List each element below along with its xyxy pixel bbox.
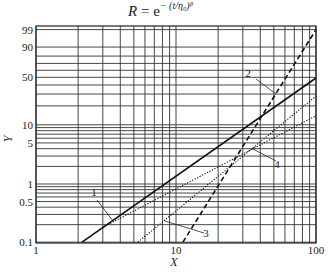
curve-annotations: 1234 [91,67,280,239]
curve-label-1: 1 [91,186,97,198]
y-tick-label: 0.5 [19,196,33,208]
series-line-2 [183,30,316,243]
curve-label-2: 2 [245,67,251,79]
series-line-1 [82,78,316,242]
y-tick-label: 50 [22,71,34,83]
x-tick-label: 1 [33,244,39,256]
leader-line [165,221,204,233]
leader-line [256,79,276,94]
series-lines [82,30,316,243]
y-axis-label: Y [1,134,15,142]
y-tick-label: 90 [22,41,34,53]
curve-label-4: 4 [274,158,280,170]
y-tick-label: 1 [28,178,34,190]
curve-label-3: 3 [203,227,209,239]
series-line-3 [138,96,316,242]
y-tick-label: 5 [28,137,34,149]
x-tick-label: 100 [308,244,325,256]
leader-line [97,200,113,221]
y-tick-label: 10 [22,119,34,131]
weibull-plot: 1234 0.10.51510509099 110100 X Y [0,0,328,272]
y-tick-label: 99 [22,24,34,36]
leader-line [253,149,276,161]
series-line-4 [103,116,316,228]
grid-lines [36,26,316,243]
x-axis-label: X [169,255,178,269]
x-tick-labels: 110100 [33,244,325,256]
y-tick-label: 0.1 [19,236,33,248]
y-tick-labels: 0.10.51510509099 [19,24,33,249]
